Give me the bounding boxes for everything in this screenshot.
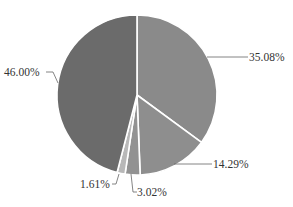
pie-slices	[57, 15, 217, 175]
label-46-00: 46.00%	[4, 66, 40, 78]
leader-line-46	[46, 72, 58, 83]
leader-line-1	[112, 174, 119, 184]
label-14-29: 14.29%	[213, 158, 249, 170]
label-3-02: 3.02%	[137, 186, 167, 198]
pie-chart: 35.08% 14.29% 3.02% 1.61% 46.00%	[0, 0, 293, 207]
label-1-61: 1.61%	[80, 178, 110, 190]
label-35-08: 35.08%	[249, 51, 285, 63]
